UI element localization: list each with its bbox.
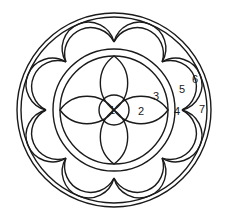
petal-2 <box>100 110 127 164</box>
label-5: 5 <box>179 83 185 95</box>
label-3: 3 <box>153 90 159 102</box>
petal-4 <box>100 56 127 110</box>
label-2: 2 <box>138 105 144 117</box>
region-labels: 1 2 3 4 5 6 7 <box>109 73 205 117</box>
label-1: 1 <box>109 104 115 116</box>
label-4: 4 <box>174 105 180 117</box>
rose-window-diagram: 1 2 3 4 5 6 7 <box>0 0 229 219</box>
petal-3 <box>60 96 114 123</box>
label-6: 6 <box>192 73 198 85</box>
label-7: 7 <box>199 103 205 115</box>
